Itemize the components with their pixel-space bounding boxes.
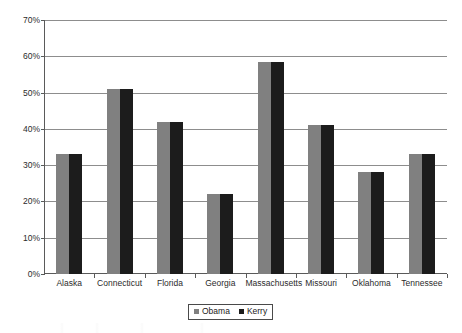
bars-layer [44,20,447,274]
x-axis-label-alaska: Alaska [44,278,94,288]
x-axis-label-massachusetts: Massachusetts [246,278,296,288]
bar-obama-massachusetts [258,62,271,274]
legend-entry-obama: Obama [194,307,230,316]
bar-group [258,20,284,274]
legend-label: Obama [202,307,230,316]
bar-kerry-tennessee [422,154,435,274]
legend-swatch-kerry-icon [239,309,244,314]
bar-obama-oklahoma [358,172,371,274]
y-axis-tick-label: 30% [0,161,40,170]
bar-group [56,20,82,274]
x-axis-label-georgia: Georgia [195,278,245,288]
bar-group [308,20,334,274]
legend-label: Kerry [247,307,267,316]
y-axis-tick-label: 60% [0,52,40,61]
bar-group [409,20,435,274]
y-axis-tick-label: 20% [0,197,40,206]
x-axis-label-connecticut: Connecticut [94,278,144,288]
bar-kerry-massachusetts [271,62,284,274]
x-axis-label-oklahoma: Oklahoma [346,278,396,288]
bar-obama-georgia [207,194,220,274]
bar-obama-alaska [56,154,69,274]
bar-obama-florida [157,122,170,274]
y-axis-tick-label: 40% [0,125,40,134]
x-axis-label-tennessee: Tennessee [397,278,447,288]
bar-kerry-missouri [321,125,334,274]
bar-kerry-florida [170,122,183,274]
y-axis-tick-label: 50% [0,89,40,98]
legend-swatch-obama-icon [194,309,199,314]
bar-kerry-oklahoma [371,172,384,274]
x-axis-labels: AlaskaConnecticutFloridaGeorgiaMassachus… [44,278,447,292]
bar-group [207,20,233,274]
bar-obama-tennessee [409,154,422,274]
x-axis-tick [447,274,448,278]
x-axis-label-florida: Florida [145,278,195,288]
chart-legend: ObamaKerry [188,304,273,320]
legend-entry-kerry: Kerry [239,307,267,316]
bar-kerry-alaska [69,154,82,274]
bar-kerry-georgia [220,194,233,274]
x-axis-label-missouri: Missouri [296,278,346,288]
bar-group [157,20,183,274]
bar-kerry-connecticut [120,89,133,274]
bar-obama-connecticut [107,89,120,274]
bar-group [107,20,133,274]
y-axis-tick [41,274,45,275]
y-axis-tick-label: 10% [0,234,40,243]
scan-noise [0,323,462,333]
bar-group [358,20,384,274]
y-axis-tick-label: 70% [0,16,40,25]
bar-obama-missouri [308,125,321,274]
y-axis-tick-label: 0% [0,270,40,279]
bar-chart: AlaskaConnecticutFloridaGeorgiaMassachus… [0,0,462,333]
